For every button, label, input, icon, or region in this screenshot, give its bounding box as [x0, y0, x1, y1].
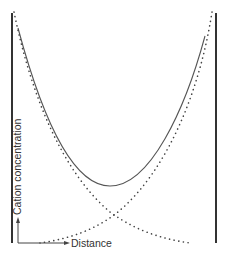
x-axis-label: Distance — [71, 237, 112, 249]
y-axis-label: Cation concentration — [11, 119, 23, 215]
left-wall-decay-curve — [14, 12, 190, 243]
x-axis-arrowhead-icon — [64, 241, 70, 245]
y-axis-arrowhead-icon — [16, 217, 20, 223]
right-wall-decay-curve — [40, 12, 212, 243]
total-concentration-curve — [18, 28, 205, 186]
axes — [16, 217, 70, 245]
cation-concentration-diagram: Cation concentration Distance — [0, 0, 227, 256]
